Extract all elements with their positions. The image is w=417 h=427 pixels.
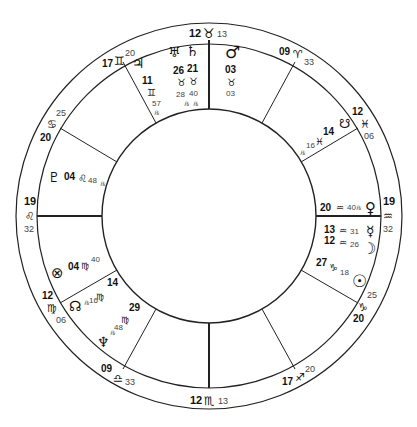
retrograde-icon: ℞ [184, 101, 190, 107]
svg-text:26: 26 [350, 240, 359, 249]
svg-text:48: 48 [88, 176, 97, 185]
svg-text:14: 14 [107, 277, 119, 288]
virgo-icon: ♍ [121, 315, 129, 325]
svg-text:20: 20 [305, 364, 315, 374]
capricorn-icon: ♑ [329, 262, 338, 273]
virgo-icon: ♍ [96, 292, 104, 302]
retrograde-icon: ℞ [154, 110, 160, 116]
aquarius-icon: ♒ [336, 203, 344, 213]
svg-text:03: 03 [225, 64, 237, 75]
svg-text:20: 20 [40, 132, 52, 143]
svg-text:27: 27 [316, 257, 328, 268]
svg-text:17: 17 [282, 376, 294, 387]
north-node[interactable]: ☊ ℞ 16 ♍ 14 [69, 277, 119, 314]
svg-text:13: 13 [217, 29, 227, 39]
svg-text:06: 06 [364, 131, 374, 141]
svg-text:06: 06 [56, 315, 66, 325]
north-node-icon: ☊ [69, 298, 81, 314]
sagittarius-icon: ♐ [295, 371, 305, 384]
planet-moon[interactable]: 12 ♒ 26 ☽ [324, 235, 376, 258]
planet-saturn[interactable]: ♄ 21 ♉ 40 ℞ [186, 43, 199, 107]
svg-text:09: 09 [101, 363, 113, 374]
cancer-icon: ♋ [47, 118, 57, 131]
aquarius-icon: ♒ [383, 210, 393, 223]
retrograde-icon: ℞ [100, 181, 106, 187]
pisces-icon: ♓ [360, 118, 370, 131]
svg-text:33: 33 [125, 377, 135, 387]
planet-neptune[interactable]: ♆ ℞ 48 ♍ 29 [97, 302, 141, 350]
cusp-label-ic: 12 ♏ 13 [190, 394, 228, 408]
south-node-icon: ☋ [339, 116, 351, 131]
svg-text:25: 25 [367, 290, 377, 300]
cusp-label-asc: 19 ♒ 32 [383, 195, 395, 234]
natal-chart-wheel: 12 ♉ 13 09 ♈ 33 12 ♓ 06 19 ♒ 32 25 ♑ 20 … [0, 0, 417, 427]
svg-text:40: 40 [91, 255, 100, 264]
venus-icon: ♀ [365, 199, 376, 217]
cusp-label-3: 17 ♐ 20 [282, 364, 315, 387]
sun-icon: ☉ [352, 271, 367, 291]
svg-text:26: 26 [173, 65, 185, 76]
saturn-icon: ♄ [186, 43, 199, 59]
retrograde-icon: ℞ [356, 205, 362, 211]
inner-circle [102, 109, 316, 323]
leo-icon: ♌ [25, 210, 35, 223]
svg-text:12: 12 [324, 235, 336, 246]
cusp-label-11: 09 ♈ 33 [279, 46, 314, 67]
libra-icon: ♎ [113, 372, 123, 385]
svg-text:13: 13 [218, 396, 228, 406]
taurus-icon: ♉ [227, 77, 236, 88]
planet-pluto[interactable]: ♇ 04 ♌ 48 ℞ [48, 169, 106, 187]
svg-text:14: 14 [323, 126, 335, 137]
cusp-line-3 [262, 309, 295, 369]
svg-text:20: 20 [320, 202, 332, 213]
retrograde-icon: ℞ [193, 101, 199, 107]
scorpio-icon: ♏ [204, 394, 215, 408]
planet-venus[interactable]: 20 ♒ 40 ℞ ♀ [320, 199, 376, 217]
svg-text:20: 20 [353, 313, 365, 324]
south-node[interactable]: ☋ ℞ 16 ♓ 14 [300, 116, 351, 156]
pluto-icon: ♇ [48, 169, 61, 185]
cusp-line-2 [301, 270, 358, 303]
svg-text:12: 12 [190, 394, 202, 406]
mercury-icon: ☿ [366, 223, 375, 239]
planet-sun[interactable]: 27 ♑ 18 ☉ [316, 257, 367, 291]
aquarius-icon: ♒ [339, 238, 347, 248]
svg-text:09: 09 [279, 46, 291, 57]
svg-text:21: 21 [187, 63, 199, 74]
svg-text:17: 17 [102, 58, 114, 69]
svg-text:12: 12 [189, 27, 201, 39]
pisces-icon: ♓ [315, 136, 324, 147]
svg-text:40: 40 [189, 89, 198, 98]
planet-mars[interactable]: ♂ 03 ♉ 03 [225, 42, 240, 98]
moon-icon: ☽ [362, 239, 376, 258]
house-cusp-lines [37, 40, 381, 388]
svg-text:19: 19 [24, 195, 36, 207]
svg-text:19: 19 [383, 195, 395, 207]
uranus-icon: ♅ [168, 44, 181, 60]
aries-icon: ♈ [293, 48, 303, 61]
svg-text:04: 04 [64, 171, 76, 182]
svg-text:03: 03 [226, 89, 235, 98]
jupiter-icon: ♃ [132, 55, 145, 71]
taurus-icon: ♉ [189, 76, 198, 87]
cusp-label-2: 25 ♑ 20 [353, 290, 377, 324]
svg-text:25: 25 [56, 108, 66, 118]
cusp-label-5: 09 ♎ 33 [101, 363, 135, 387]
cusp-line-8 [60, 128, 117, 162]
svg-text:29: 29 [129, 302, 141, 313]
cusp-label-dsc: 19 ♌ 32 [24, 195, 36, 234]
neptune-icon: ♆ [97, 334, 110, 350]
mars-icon: ♂ [225, 42, 240, 62]
svg-text:04: 04 [68, 261, 80, 272]
svg-text:32: 32 [383, 224, 393, 234]
taurus-icon: ♉ [203, 26, 215, 41]
gemini-icon: ♊ [114, 54, 125, 68]
cusp-label-mc: 12 ♉ 13 [189, 26, 227, 41]
part-of-fortune[interactable]: ⊗ 04 ♍ 40 [51, 255, 100, 282]
retrograde-icon: ℞ [300, 150, 306, 156]
svg-text:11: 11 [142, 75, 153, 86]
part-of-fortune-icon: ⊗ [51, 264, 64, 282]
svg-text:28: 28 [176, 90, 185, 99]
svg-text:12: 12 [42, 290, 54, 301]
svg-text:57: 57 [152, 99, 161, 108]
